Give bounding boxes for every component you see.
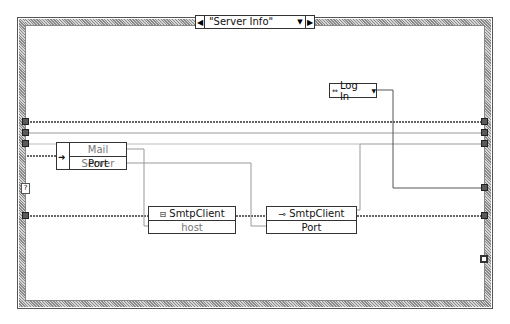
constructor-icon: ⊟ <box>159 210 166 219</box>
right-tunnel-2[interactable] <box>481 129 488 136</box>
case-resize-handle[interactable] <box>480 255 488 263</box>
unbundle-by-name-node[interactable]: ➜ Mail Server Port <box>56 142 127 170</box>
arrow-right-icon: ➜ <box>58 152 66 162</box>
left-tunnel-2[interactable] <box>22 129 29 136</box>
left-tunnel-refnum[interactable] <box>22 118 29 125</box>
enum-indicator-icon: ⇔ <box>330 87 340 95</box>
case-selector-terminal-icon[interactable]: ? <box>21 183 30 194</box>
bundle-row-mail-server[interactable]: Mail Server <box>70 143 126 157</box>
enum-constant-log-in[interactable]: ⇔ Log In ▼ <box>329 83 377 98</box>
property-node-class: SmtpClient <box>169 208 224 219</box>
left-tunnel-error[interactable] <box>22 212 29 219</box>
property-node-smtpclient-host[interactable]: ⊟ SmtpClient host <box>148 206 236 234</box>
property-key-icon: ⊸ <box>278 209 286 219</box>
property-port[interactable]: Port <box>267 221 356 235</box>
property-host[interactable]: host <box>149 221 235 235</box>
enum-value: Log In <box>340 80 369 102</box>
property-node-class: SmtpClient <box>289 208 344 219</box>
right-tunnel-state[interactable] <box>481 184 488 191</box>
right-tunnel-error[interactable] <box>481 212 488 219</box>
unbundle-input-terminal[interactable]: ➜ <box>57 143 70 169</box>
dropdown-icon[interactable]: ▼ <box>368 87 376 94</box>
left-tunnel-3[interactable] <box>22 140 29 147</box>
bundle-row-port[interactable]: Port <box>70 157 126 171</box>
property-node-smtpclient-port[interactable]: ⊸ SmtpClient Port <box>266 206 357 234</box>
right-tunnel-3[interactable] <box>481 140 488 147</box>
right-tunnel-refnum[interactable] <box>481 118 488 125</box>
